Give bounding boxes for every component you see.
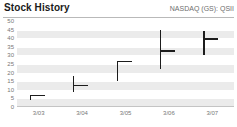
ohlc-high-low-line — [203, 31, 204, 55]
gridline — [17, 64, 234, 65]
y-axis-tick-label: 40 — [7, 35, 14, 41]
gridline — [17, 38, 234, 39]
ohlc-close-tick — [117, 61, 132, 62]
y-axis-tick-label: 10 — [7, 87, 14, 93]
y-axis-tick-label: 30 — [7, 52, 14, 58]
x-axis-tick-label: 3/04 — [76, 110, 88, 116]
y-axis: 50454035302520151050 — [0, 21, 16, 107]
chart-band — [17, 30, 234, 39]
chart-band — [17, 64, 234, 73]
axis-baseline — [17, 106, 234, 107]
header-divider — [3, 17, 234, 18]
chart-band — [17, 47, 234, 56]
y-axis-tick-label: 0 — [11, 104, 14, 110]
stock-history-widget: Stock History NASDAQ (GS): QSII 50454035… — [0, 0, 237, 127]
ohlc-high-low-line — [117, 61, 118, 82]
x-axis-tick-label: 3/03 — [33, 110, 45, 116]
gridline — [17, 90, 234, 91]
x-axis: 3/033/043/053/063/07 — [17, 109, 234, 121]
gridline — [17, 55, 234, 56]
page-title: Stock History — [4, 2, 70, 13]
gridline — [17, 81, 234, 82]
y-axis-tick-label: 25 — [7, 61, 14, 67]
gridline — [17, 98, 234, 99]
x-axis-tick-label: 3/07 — [206, 110, 218, 116]
chart-band — [17, 81, 234, 90]
y-axis-tick-label: 50 — [7, 18, 14, 24]
y-axis-tick-label: 5 — [11, 95, 14, 101]
ohlc-close-tick — [30, 95, 45, 96]
y-axis-tick-label: 20 — [7, 70, 14, 76]
x-axis-tick-label: 3/05 — [120, 110, 132, 116]
gridline — [17, 21, 234, 22]
widget-header: Stock History NASDAQ (GS): QSII — [0, 0, 237, 18]
y-axis-tick-label: 45 — [7, 27, 14, 33]
ohlc-close-tick — [203, 38, 218, 39]
y-axis-tick-label: 15 — [7, 78, 14, 84]
gridline — [17, 47, 234, 48]
ohlc-close-tick — [73, 85, 88, 86]
y-axis-tick-label: 35 — [7, 44, 14, 50]
chart-plot-area — [17, 21, 234, 107]
x-axis-tick-label: 3/06 — [163, 110, 175, 116]
ticker-symbol-label: NASDAQ (GS): QSII — [170, 5, 234, 12]
ohlc-close-tick — [160, 50, 175, 51]
gridline — [17, 73, 234, 74]
gridline — [17, 30, 234, 31]
